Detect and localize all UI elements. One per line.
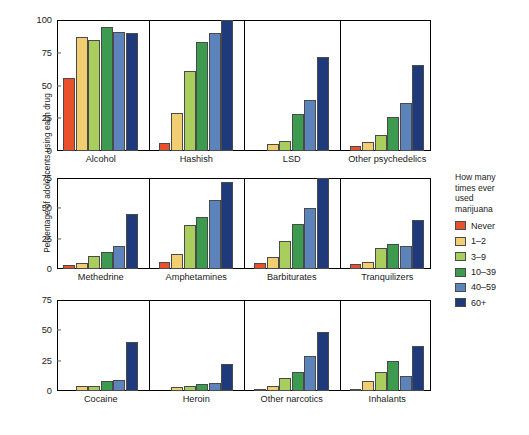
bar (387, 361, 399, 391)
bar (171, 113, 183, 151)
bar (88, 256, 100, 269)
x-axis-group-label: Methedrine (78, 272, 124, 282)
bar (126, 33, 138, 151)
y-tick-label: 0 (47, 146, 57, 156)
bar-group-heroin: Heroin (159, 300, 235, 391)
bar (221, 20, 233, 151)
y-tick-mark (57, 238, 61, 239)
legend-item-label: 60+ (471, 298, 486, 308)
bar (254, 263, 266, 269)
bar (279, 241, 291, 269)
bar (412, 220, 424, 269)
x-axis-group-label: LSD (283, 154, 301, 164)
legend-item-10-39[interactable]: 10–39 (455, 266, 529, 279)
bar (292, 224, 304, 269)
bar (279, 378, 291, 391)
legend-swatch-icon (455, 252, 466, 261)
chart-panel-1: 0255075100AlcoholHashishLSDOther psyched… (57, 20, 431, 151)
bar-group-methedrine: Methedrine (63, 178, 139, 269)
legend-item-3-9[interactable]: 3–9 (455, 250, 529, 263)
bar (254, 389, 266, 391)
bar (101, 381, 113, 391)
bar (267, 386, 279, 391)
legend-item-label: 40–59 (471, 282, 496, 292)
bar-group-cocaine: Cocaine (63, 300, 139, 391)
bar (101, 27, 113, 151)
bar (159, 143, 171, 151)
legend-item-label: Never (471, 221, 495, 231)
bar (304, 356, 316, 391)
y-tick-mark (57, 118, 61, 119)
bar (350, 146, 362, 151)
bar (184, 386, 196, 391)
bar (63, 78, 75, 151)
bar (292, 114, 304, 151)
legend-swatch-icon (455, 268, 466, 277)
bar (209, 200, 221, 269)
y-tick-label: 25 (42, 356, 57, 366)
bar (171, 387, 183, 391)
bar (375, 135, 387, 151)
legend-entries: Never1–23–910–3940–5960+ (455, 219, 529, 309)
bar (412, 65, 424, 151)
chart-legend: How manytimes everusedmarijuana Never1–2… (455, 172, 529, 312)
group-separator (149, 20, 150, 151)
legend-item-40-59[interactable]: 40–59 (455, 281, 529, 294)
bar (113, 380, 125, 391)
legend-swatch-icon (455, 237, 466, 246)
bar (267, 144, 279, 151)
bar (184, 71, 196, 151)
bar (113, 32, 125, 151)
bar (400, 103, 412, 151)
bar (267, 257, 279, 269)
bar (196, 384, 208, 391)
bar (375, 372, 387, 391)
bar (126, 214, 138, 269)
bar (350, 264, 362, 269)
legend-item-never[interactable]: Never (455, 219, 529, 232)
bar (209, 383, 221, 391)
x-axis-group-label: Other narcotics (261, 394, 323, 404)
legend-title-line: times ever (455, 183, 529, 194)
bar-group-barbiturates: Barbiturates (254, 178, 330, 269)
bar (375, 248, 387, 269)
y-tick-label: 75 (42, 173, 57, 183)
y-tick-mark (57, 330, 61, 331)
bar (76, 386, 88, 391)
x-axis-group-label: Cocaine (84, 394, 118, 404)
y-tick-label: 0 (47, 264, 57, 274)
bar (88, 40, 100, 151)
legend-swatch-icon (455, 221, 466, 230)
bar-chart-figure: Percentage of adolescents using each dru… (0, 0, 529, 435)
group-separator (340, 20, 341, 151)
legend-swatch-icon (455, 298, 466, 307)
x-axis-group-label: Barbiturates (267, 272, 317, 282)
bar-group-hashish: Hashish (159, 20, 235, 151)
x-axis-group-label: Inhalants (369, 394, 406, 404)
bar (221, 364, 233, 391)
bar (171, 254, 183, 269)
y-tick-label: 75 (42, 295, 57, 305)
bar (63, 265, 75, 269)
bar (387, 244, 399, 269)
chart-panel-3: 0255075CocaineHeroinOther narcoticsInhal… (57, 300, 431, 391)
legend-title: How manytimes everusedmarijuana (455, 172, 529, 214)
legend-item-60-[interactable]: 60+ (455, 296, 529, 309)
bar (317, 57, 329, 151)
x-axis-group-label: Hashish (180, 154, 213, 164)
group-separator (244, 300, 245, 391)
group-separator (340, 300, 341, 391)
legend-swatch-icon (455, 283, 466, 292)
group-separator (244, 178, 245, 269)
bar (101, 252, 113, 269)
bar-group-amphetamines: Amphetamines (159, 178, 235, 269)
bar-group-inhalants: Inhalants (350, 300, 426, 391)
bar (412, 346, 424, 391)
legend-item-1-2[interactable]: 1–2 (455, 235, 529, 248)
bar (317, 332, 329, 391)
group-separator (340, 178, 341, 269)
bar-group-other-narcotics: Other narcotics (254, 300, 330, 391)
bar (184, 225, 196, 269)
y-tick-label: 50 (42, 203, 57, 213)
chart-panel-2: 0255075MethedrineAmphetaminesBarbiturate… (57, 178, 431, 269)
